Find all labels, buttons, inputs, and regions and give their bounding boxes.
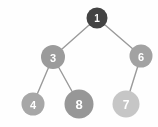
tree-graph-figure: 136487 [0,0,158,127]
node-label-8: 8 [75,97,82,112]
graph-node-6[interactable]: 6 [130,45,153,68]
graph-node-7[interactable]: 7 [113,91,140,118]
node-label-3: 3 [50,52,56,64]
graph-node-4[interactable]: 4 [22,93,45,116]
graph-node-3[interactable]: 3 [41,45,65,69]
graph-node-8[interactable]: 8 [65,90,94,119]
graph-canvas: 136487 [0,0,158,127]
node-label-1: 1 [94,13,100,24]
node-label-7: 7 [123,98,130,112]
node-label-4: 4 [30,99,37,111]
node-label-6: 6 [138,51,144,63]
nodes-layer: 136487 [22,8,153,119]
graph-node-1[interactable]: 1 [87,8,108,29]
